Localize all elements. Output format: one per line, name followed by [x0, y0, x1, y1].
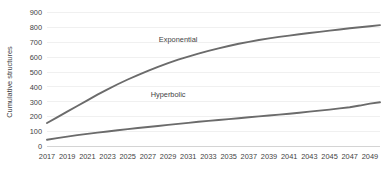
x-axis-tick-labels: 2017201920212023202520272029203120332035…: [39, 152, 378, 161]
x-tick-label: 2019: [59, 152, 75, 161]
x-tick-label: 2027: [140, 152, 156, 161]
x-tick-label: 2043: [301, 152, 317, 161]
x-tick-label: 2049: [362, 152, 378, 161]
x-tick-label: 2045: [321, 152, 337, 161]
x-tick-label: 2033: [200, 152, 216, 161]
y-tick-label: 900: [30, 8, 42, 17]
y-axis-title: Cumulative structures: [5, 46, 14, 118]
y-tick-label: 100: [30, 127, 42, 136]
series-label-exponential: Exponential: [159, 35, 198, 44]
y-tick-label: 700: [30, 38, 42, 47]
x-tick-label: 2029: [160, 152, 176, 161]
y-tick-label: 500: [30, 68, 42, 77]
y-tick-label: 800: [30, 23, 42, 32]
y-tick-label: 600: [30, 53, 42, 62]
x-tick-label: 2039: [261, 152, 277, 161]
x-tick-label: 2025: [120, 152, 136, 161]
y-tick-label: 300: [30, 98, 42, 107]
x-tick-label: 2031: [180, 152, 196, 161]
line-chart: 0100200300400500600700800900 20172019202…: [0, 0, 386, 174]
x-tick-label: 2047: [342, 152, 358, 161]
x-tick-label: 2037: [241, 152, 257, 161]
x-tick-label: 2017: [39, 152, 55, 161]
y-tick-label: 200: [30, 112, 42, 121]
series-label-hyperbolic: Hyperbolic: [151, 90, 186, 99]
x-tick-label: 2041: [281, 152, 297, 161]
x-tick-label: 2021: [79, 152, 95, 161]
y-tick-label: 400: [30, 83, 42, 92]
x-tick-label: 2023: [99, 152, 115, 161]
y-tick-label: 0: [38, 142, 42, 151]
chart-container: 0100200300400500600700800900 20172019202…: [0, 0, 386, 174]
x-tick-label: 2035: [220, 152, 236, 161]
